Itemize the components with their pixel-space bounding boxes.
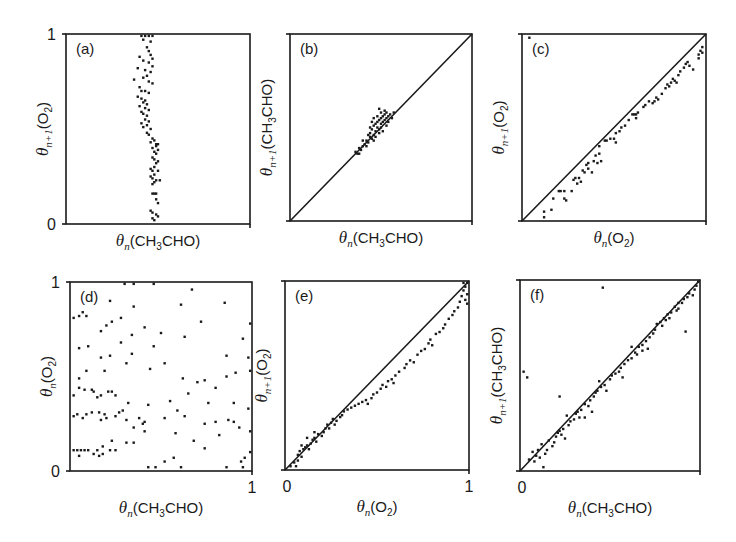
data-point [391,117,393,119]
data-point [457,306,459,308]
data-point [151,35,153,37]
data-point [464,285,466,287]
data-point [387,121,389,123]
data-point [193,440,195,442]
data-point [641,344,643,346]
data-point [144,118,146,120]
data-point [147,466,149,468]
data-point [593,160,595,162]
data-point [647,348,649,350]
data-point [140,122,142,124]
data-point [149,141,151,143]
data-point [335,420,337,422]
data-point [618,370,620,372]
data-point [146,115,148,117]
data-point [661,93,663,95]
data-point [648,100,650,102]
data-point [102,453,104,455]
data-point [666,313,668,315]
data-point [466,293,468,295]
data-point [603,384,605,386]
data-point [686,296,688,298]
axis-symbol: θ [257,168,276,176]
data-point [558,395,560,397]
data-point [620,126,622,128]
axis-species: (CH [353,229,380,246]
data-point [453,310,455,312]
data-point [183,415,185,417]
data-point [462,289,464,291]
panel-e: (e)01θn(O2)θn+1(O2) [252,281,474,518]
data-point [249,322,251,324]
data-point [605,390,607,392]
data-point [142,113,144,115]
data-point [148,61,150,63]
data-point [558,190,560,192]
data-point [114,449,116,451]
data-point [576,182,578,184]
data-point [367,134,369,136]
data-point [459,301,461,303]
data-point [574,177,576,179]
data-point [372,393,374,395]
data-point [169,400,171,402]
data-point [398,371,400,373]
data-point [295,465,297,467]
data-point [105,324,107,326]
data-point [623,363,625,365]
data-point [153,283,155,285]
data-point [387,380,389,382]
data-point [148,35,150,37]
data-point [444,323,446,325]
data-point [392,382,394,384]
axis-species-rest: CHO) [488,327,505,365]
data-point [424,348,426,350]
data-point [670,81,672,83]
data-point [100,330,102,332]
panel-d: (d)011θn(CH3CHO)θn(O2) [37,274,257,519]
data-point [96,396,98,398]
data-point [224,302,226,304]
data-point [98,455,100,457]
data-point [133,426,135,428]
data-point [133,305,135,307]
data-point [313,437,315,439]
data-point [330,422,332,424]
data-point [313,431,315,433]
data-point [149,54,151,56]
data-point [376,115,378,117]
data-point [535,455,537,457]
data-point [677,74,679,76]
x-tick-label: 1 [465,478,474,495]
data-point [155,192,157,194]
data-point [114,415,116,417]
data-point [668,317,670,319]
data-point [146,46,148,48]
axis-species-rest: CHO) [162,232,200,249]
data-point [157,215,159,217]
data-point [225,375,227,377]
data-point [174,432,176,434]
data-point [146,75,148,77]
data-point [382,130,384,132]
data-point [548,439,550,441]
data-point [159,179,161,181]
data-point [133,283,135,285]
data-point [127,402,129,404]
data-point [247,407,249,409]
data-point [341,414,343,416]
data-point [147,404,149,406]
data-point [133,441,135,443]
data-point [677,307,679,309]
data-point [140,35,142,37]
data-point [578,416,580,418]
data-point [460,295,462,297]
axis-symbol-subscript: n+1 [261,376,273,394]
data-point [315,440,317,442]
identity-line [522,34,706,221]
data-point [405,363,407,365]
data-point [542,466,544,468]
data-point [409,359,411,361]
data-point [297,459,299,461]
y-tick-label: 1 [47,26,56,43]
